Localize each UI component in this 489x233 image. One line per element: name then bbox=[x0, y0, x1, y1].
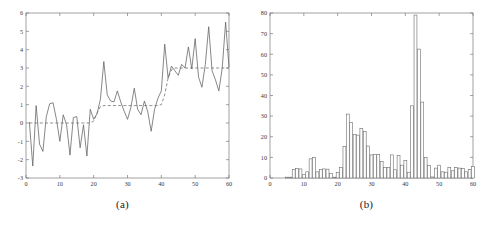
y-tick-label: 4 bbox=[20, 46, 23, 53]
bar bbox=[438, 165, 441, 178]
bar bbox=[431, 177, 434, 178]
plot-frame bbox=[270, 13, 473, 178]
y-tick-label: 80 bbox=[261, 9, 267, 16]
bar bbox=[329, 173, 332, 178]
y-tick-label: 60 bbox=[261, 51, 267, 58]
bar bbox=[411, 106, 414, 178]
bar bbox=[394, 170, 397, 178]
bar bbox=[377, 154, 380, 178]
panel-b: 010203040506001020304050607080 (b) bbox=[244, 0, 489, 233]
bar bbox=[340, 168, 343, 178]
bar bbox=[401, 165, 404, 178]
bar bbox=[367, 146, 370, 178]
y-tick-label: 5 bbox=[20, 28, 23, 35]
panel-a: 0102030405060-3-2-10123456 (a) bbox=[0, 0, 245, 233]
x-tick-label: 20 bbox=[335, 180, 341, 187]
bar bbox=[306, 172, 309, 178]
bar bbox=[360, 129, 363, 179]
bar bbox=[451, 171, 454, 178]
x-tick-label: 60 bbox=[226, 180, 232, 187]
y-tick-label: 0 bbox=[264, 174, 267, 181]
bar bbox=[319, 169, 322, 178]
x-tick-label: 30 bbox=[124, 180, 130, 187]
bar bbox=[353, 135, 356, 178]
bar bbox=[468, 169, 471, 178]
y-tick-label: 70 bbox=[261, 30, 267, 37]
bar bbox=[326, 169, 329, 178]
x-tick-label: 30 bbox=[368, 180, 374, 187]
bar bbox=[357, 135, 360, 178]
y-tick-label: -3 bbox=[18, 174, 23, 181]
line-chart-a: 0102030405060-3-2-10123456 bbox=[0, 0, 245, 196]
bar bbox=[323, 169, 326, 178]
caption-b: (b) bbox=[244, 198, 489, 210]
bar bbox=[370, 155, 373, 178]
x-tick-label: 50 bbox=[436, 180, 442, 187]
y-tick-label: 3 bbox=[20, 64, 23, 71]
bar bbox=[343, 147, 346, 178]
figure-container: 0102030405060-3-2-10123456 (a) 010203040… bbox=[0, 0, 489, 233]
bar-group bbox=[285, 15, 474, 178]
plot-frame bbox=[26, 13, 229, 178]
y-tick-label: 10 bbox=[261, 154, 267, 161]
bar bbox=[289, 177, 292, 178]
bar bbox=[309, 159, 312, 178]
x-tick-label: 50 bbox=[192, 180, 198, 187]
bar bbox=[414, 15, 417, 178]
bar bbox=[285, 177, 288, 178]
bar bbox=[424, 157, 427, 178]
bar bbox=[455, 168, 458, 178]
x-tick-label: 0 bbox=[24, 180, 27, 187]
y-tick-label: 30 bbox=[261, 112, 267, 119]
bar bbox=[302, 175, 305, 178]
y-tick-label: 1 bbox=[20, 101, 23, 108]
x-tick-label: 0 bbox=[268, 180, 271, 187]
x-tick-label: 40 bbox=[158, 180, 164, 187]
bar bbox=[384, 167, 387, 178]
bar bbox=[333, 177, 336, 178]
series-mean bbox=[29, 68, 229, 123]
bar-chart-b: 010203040506001020304050607080 bbox=[244, 0, 489, 196]
bar bbox=[444, 172, 447, 178]
y-tick-label: 0 bbox=[20, 119, 23, 126]
caption-a: (a) bbox=[0, 198, 245, 210]
x-tick-label: 20 bbox=[91, 180, 97, 187]
bar bbox=[407, 172, 410, 178]
bar bbox=[390, 155, 393, 178]
bar bbox=[350, 122, 353, 178]
y-tick-label: 50 bbox=[261, 71, 267, 78]
bar bbox=[421, 102, 424, 178]
y-tick-label: 20 bbox=[261, 133, 267, 140]
y-tick-label: 40 bbox=[261, 92, 267, 99]
x-tick-label: 60 bbox=[470, 180, 476, 187]
bar bbox=[346, 114, 349, 178]
bar bbox=[465, 172, 468, 178]
bar bbox=[417, 49, 420, 178]
bar bbox=[299, 169, 302, 178]
bar bbox=[434, 168, 437, 178]
bar bbox=[363, 132, 366, 178]
bar bbox=[428, 166, 431, 178]
bar bbox=[296, 169, 299, 178]
x-tick-label: 10 bbox=[57, 180, 63, 187]
y-tick-label: 2 bbox=[20, 83, 23, 90]
bar bbox=[404, 160, 407, 178]
bar bbox=[397, 155, 400, 178]
bar bbox=[458, 168, 461, 178]
bar bbox=[441, 172, 444, 178]
bar bbox=[373, 154, 376, 178]
bar bbox=[472, 166, 475, 178]
bar bbox=[380, 162, 383, 179]
y-tick-label: 6 bbox=[20, 9, 23, 16]
bar bbox=[292, 169, 295, 178]
bar bbox=[461, 169, 464, 178]
bar bbox=[316, 172, 319, 178]
bar bbox=[387, 168, 390, 178]
x-tick-label: 40 bbox=[402, 180, 408, 187]
bar bbox=[313, 157, 316, 178]
bar bbox=[448, 168, 451, 178]
y-tick-label: -2 bbox=[18, 156, 23, 163]
y-tick-label: -1 bbox=[18, 138, 23, 145]
series-signal bbox=[29, 22, 229, 166]
x-tick-label: 10 bbox=[301, 180, 307, 187]
